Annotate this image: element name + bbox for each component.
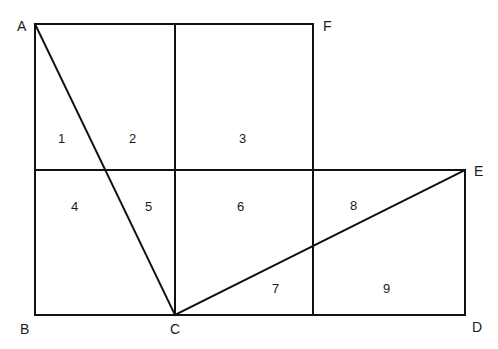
point-label-F: F: [323, 18, 332, 34]
region-label-2: 2: [129, 131, 136, 146]
region-label-9: 9: [383, 281, 390, 296]
region-label-5: 5: [145, 199, 152, 214]
region-label-8: 8: [350, 198, 357, 213]
diagonal-CE: [175, 170, 465, 315]
point-label-D: D: [472, 319, 482, 335]
region-label-4: 4: [71, 199, 78, 214]
region-label-6: 6: [237, 199, 244, 214]
region-label-1: 1: [58, 131, 65, 146]
geometric-diagram: A F E B C D 1 2 3 4 5 6 7 8 9: [0, 0, 498, 349]
point-label-C: C: [170, 321, 180, 337]
region-label-7: 7: [272, 281, 279, 296]
region-label-3: 3: [239, 131, 246, 146]
point-label-E: E: [474, 163, 483, 179]
point-label-A: A: [17, 18, 27, 34]
point-label-B: B: [20, 321, 29, 337]
